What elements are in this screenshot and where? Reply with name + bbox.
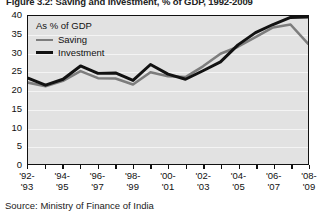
legend: As % of GDP Saving Investment — [36, 19, 104, 59]
x-axis-tick-label: '94-'95 — [54, 171, 70, 192]
y-axis-tick-label: 40 — [11, 10, 22, 20]
source-note: Source: Ministry of Finance of India — [5, 200, 154, 211]
x-axis-tick — [27, 165, 28, 169]
legend-swatch-investment-icon — [36, 51, 53, 54]
legend-label-saving: Saving — [58, 33, 87, 46]
x-axis-tick-label: '00-'01 — [160, 171, 176, 192]
x-axis-tick — [256, 165, 257, 169]
legend-item-saving: Saving — [36, 33, 104, 46]
y-axis-tick-label: 35 — [11, 29, 22, 39]
legend-swatch-saving-icon — [36, 39, 53, 41]
y-axis-tick-label: 25 — [11, 66, 22, 76]
x-axis-tick — [45, 165, 46, 169]
x-axis-tick — [186, 165, 187, 169]
x-axis-tick — [291, 165, 292, 169]
y-axis-tick-label: 5 — [17, 141, 22, 151]
y-axis-tick-label: 15 — [11, 104, 22, 114]
x-axis-tick-label: '98-'99 — [125, 171, 141, 192]
y-axis-tick-label: 0 — [17, 160, 22, 170]
x-axis-tick-label: '08-'09 — [301, 171, 317, 192]
x-axis-tick — [98, 165, 99, 169]
y-axis-tick-label: 20 — [11, 85, 22, 95]
y-axis-tick-label: 30 — [11, 48, 22, 58]
x-axis-tick — [115, 165, 116, 169]
x-axis-tick-label: '02-'03 — [195, 171, 211, 192]
y-axis: 0510152025303540 — [0, 15, 25, 165]
x-axis-tick — [133, 165, 134, 169]
y-axis-tick-label: 10 — [11, 123, 22, 133]
legend-heading: As % of GDP — [36, 19, 104, 32]
x-axis-tick — [150, 165, 151, 169]
figure-container: Figure 3.2: Saving and Investment, % of … — [0, 0, 329, 216]
x-axis-tick — [168, 165, 169, 169]
x-axis-tick — [274, 165, 275, 169]
x-axis-tick-label: '06-'07 — [266, 171, 282, 192]
x-axis: '92-'93'94-'95'96-'97'98-'99'00-'01'02-'… — [27, 165, 309, 197]
legend-label-investment: Investment — [58, 46, 104, 59]
x-axis-tick — [62, 165, 63, 169]
legend-item-investment: Investment — [36, 46, 104, 59]
x-axis-tick — [221, 165, 222, 169]
x-axis-tick-label: '04-'05 — [231, 171, 247, 192]
x-axis-tick-label: '92-'93 — [19, 171, 35, 192]
x-axis-tick — [203, 165, 204, 169]
x-axis-tick — [239, 165, 240, 169]
figure-title: Figure 3.2: Saving and Investment, % of … — [6, 0, 326, 8]
x-axis-tick-label: '96-'97 — [90, 171, 106, 192]
x-axis-tick — [80, 165, 81, 169]
x-axis-tick — [309, 165, 310, 169]
